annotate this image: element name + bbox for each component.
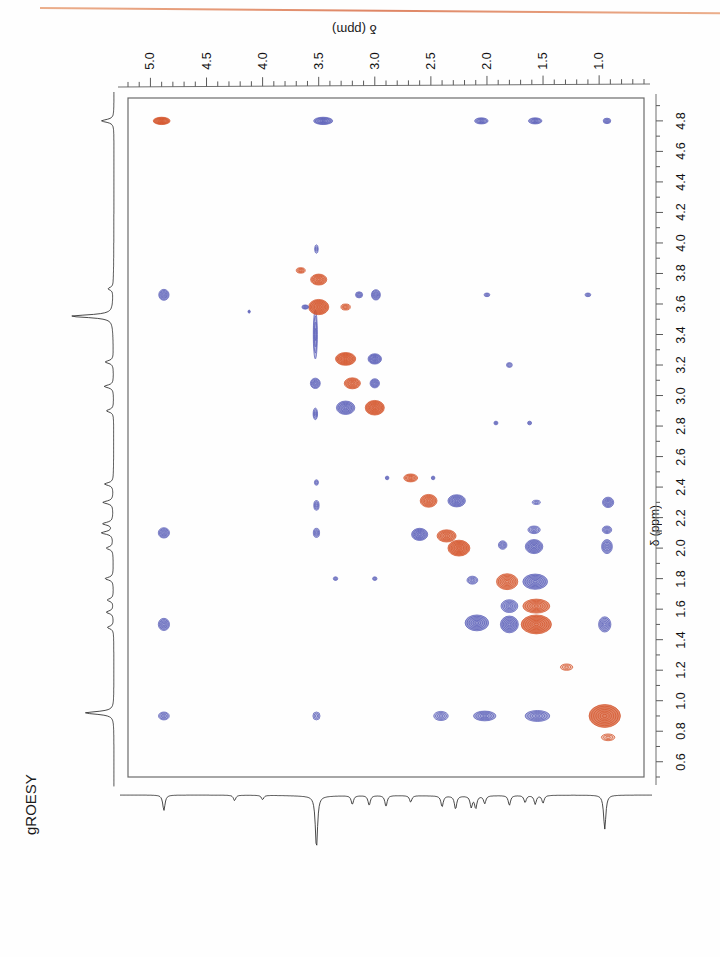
- contour-peak: [159, 712, 170, 720]
- contour-peak: [302, 305, 309, 309]
- bottom-projection-trace: [120, 795, 652, 845]
- contour-peak: [525, 540, 543, 554]
- nmr-figure-canvas: δ (ppm) δ (ppm) gROESY 1.01.52.02.53.03.…: [0, 0, 720, 957]
- contour-peak: [506, 363, 512, 368]
- contour-peak: [313, 712, 320, 720]
- contour-peak: [523, 574, 548, 589]
- contour-peak: [528, 421, 532, 425]
- contour-peak: [248, 310, 250, 313]
- contour-peak: [501, 600, 518, 613]
- contour-peak: [333, 577, 337, 581]
- contour-peak: [589, 705, 620, 728]
- contour-peak: [336, 353, 356, 366]
- contour-peak: [412, 528, 428, 540]
- contour-peak: [368, 354, 381, 364]
- contour-peak: [344, 378, 360, 389]
- contour-peak: [498, 541, 507, 550]
- contour-peak: [434, 711, 449, 720]
- contour-peak: [309, 299, 329, 314]
- contour-peak: [296, 268, 305, 274]
- contour-peak: [153, 117, 170, 124]
- contour-peak: [585, 293, 591, 297]
- contour-peak: [313, 528, 319, 537]
- contour-peak: [528, 118, 541, 124]
- contour-peak: [431, 476, 435, 480]
- contour-peak: [599, 617, 611, 632]
- contour-peak: [473, 711, 495, 721]
- contour-peak: [602, 497, 613, 507]
- contour-peak: [404, 474, 418, 482]
- contour-peak: [310, 378, 320, 388]
- spectrum-plot: [0, 0, 720, 957]
- contour-peak: [437, 530, 456, 542]
- contour-peak: [521, 615, 551, 634]
- contour-peak: [500, 616, 518, 633]
- left-projection-trace: [72, 92, 114, 786]
- contour-peaks: [153, 117, 620, 740]
- contour-peak: [532, 500, 540, 504]
- contour-peak: [311, 274, 327, 285]
- contour-peak: [601, 734, 614, 741]
- contour-peak: [314, 501, 319, 511]
- contour-peak: [603, 118, 611, 124]
- contour-peak: [602, 526, 611, 534]
- contour-peak: [484, 293, 490, 297]
- contour-peak: [602, 540, 613, 554]
- contour-peak: [525, 710, 550, 721]
- contour-peak: [371, 290, 380, 300]
- contour-peak: [313, 408, 317, 420]
- contour-peak: [385, 476, 389, 480]
- contour-peak: [475, 118, 488, 124]
- contour-peak: [465, 615, 489, 631]
- contour-peak: [494, 421, 498, 425]
- contour-peak: [467, 576, 478, 584]
- contour-peak: [560, 664, 572, 670]
- contour-peak: [336, 401, 354, 414]
- contour-peak: [365, 400, 384, 415]
- contour-peak: [523, 599, 550, 613]
- contour-peak: [314, 480, 318, 486]
- contour-peak: [313, 310, 317, 359]
- contour-peak: [159, 289, 169, 300]
- contour-peak: [370, 379, 379, 388]
- plot-frame: [128, 98, 644, 777]
- top-axis-ticks: [118, 75, 650, 87]
- contour-peak: [314, 117, 333, 124]
- right-axis-ticks: [656, 94, 663, 785]
- contour-peak: [355, 292, 362, 298]
- contour-peak: [158, 618, 169, 630]
- contour-peak: [420, 494, 437, 507]
- contour-peak: [315, 245, 319, 254]
- contour-peak: [373, 577, 377, 581]
- contour-peak: [448, 495, 466, 507]
- contour-peak: [528, 526, 540, 534]
- contour-peak: [496, 574, 517, 590]
- contour-peak: [158, 528, 169, 538]
- contour-peak: [341, 304, 350, 310]
- contour-peak: [448, 540, 470, 556]
